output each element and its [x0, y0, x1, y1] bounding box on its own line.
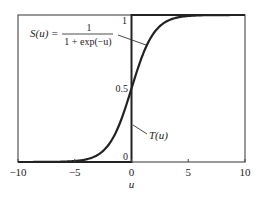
y-tick-label-0.5: 0.5	[116, 83, 129, 94]
x-tick-label-10: 10	[240, 166, 252, 178]
x-tick-label-neg10: −10	[9, 166, 27, 178]
y-tick-label-0: 0	[123, 151, 128, 162]
x-tick-label-neg5: −5	[69, 166, 81, 178]
x-tick-label-5: 5	[186, 166, 192, 178]
chart: −10 −5 0 5 10 u 0 0.5 1 S(u) = 1 1 + exp…	[0, 0, 261, 198]
step-leader-line	[133, 125, 147, 134]
step-annotation: T(u)	[133, 125, 168, 142]
x-tick-label-0: 0	[129, 166, 135, 178]
step-label: T(u)	[149, 129, 168, 142]
sigmoid-formula-annotation: S(u) = 1 1 + exp(−u)	[30, 22, 146, 48]
sigmoid-formula-numerator: 1	[87, 22, 92, 33]
plot-svg: −10 −5 0 5 10 u 0 0.5 1 S(u) = 1 1 + exp…	[0, 0, 261, 198]
y-tick-label-1: 1	[122, 15, 127, 26]
sigmoid-formula-lhs: S(u) =	[30, 27, 59, 40]
sigmoid-formula-denominator: 1 + exp(−u)	[64, 36, 111, 48]
x-axis-label: u	[129, 178, 135, 190]
